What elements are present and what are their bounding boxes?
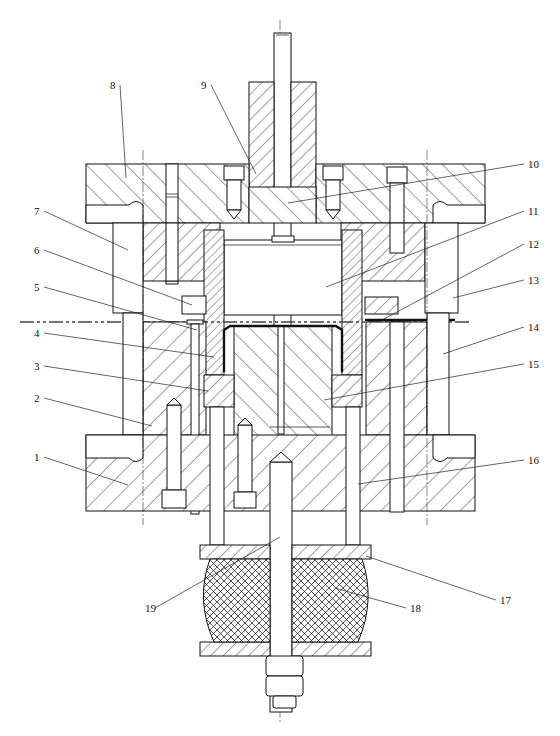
callout-label-6: 6 bbox=[34, 244, 40, 256]
part-12-stopper-block-right bbox=[365, 297, 398, 314]
part-11-ejector-block bbox=[224, 236, 342, 315]
callout-label-18: 18 bbox=[410, 602, 422, 614]
callout-label-9: 9 bbox=[201, 79, 207, 91]
callout-label-14: 14 bbox=[528, 321, 540, 333]
callout-label-11: 11 bbox=[528, 205, 539, 217]
callout-label-2: 2 bbox=[34, 392, 40, 404]
callout-label-13: 13 bbox=[528, 274, 540, 286]
die-assembly-drawing: 12345678910111213141516171819 bbox=[0, 0, 560, 736]
leader-line-13 bbox=[453, 280, 524, 298]
callout-label-19: 19 bbox=[145, 602, 157, 614]
leader-line-14 bbox=[443, 327, 524, 354]
callout-label-8: 8 bbox=[110, 79, 116, 91]
callout-label-4: 4 bbox=[34, 327, 40, 339]
callout-label-15: 15 bbox=[528, 358, 540, 370]
callout-label-7: 7 bbox=[34, 205, 40, 217]
callout-label-3: 3 bbox=[34, 360, 40, 372]
callout-label-16: 16 bbox=[528, 454, 540, 466]
callout-label-5: 5 bbox=[34, 281, 40, 293]
part-6-stopper-block-left bbox=[182, 296, 206, 314]
callout-label-12: 12 bbox=[528, 238, 539, 250]
callout-label-10: 10 bbox=[528, 158, 540, 170]
callout-label-1: 1 bbox=[34, 451, 40, 463]
leader-line-17 bbox=[366, 556, 496, 600]
callout-label-17: 17 bbox=[500, 594, 512, 606]
